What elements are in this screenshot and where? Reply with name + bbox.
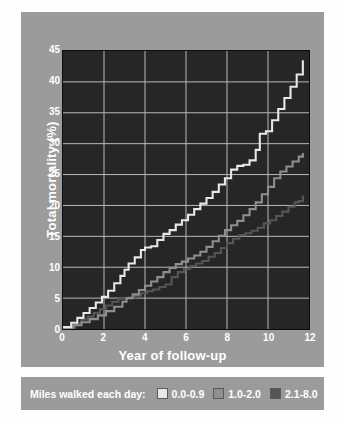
figure-container: Total mortality (%) 051015202530354045 0… <box>0 0 345 425</box>
legend-swatch <box>270 388 281 399</box>
legend-label: 1.0-2.0 <box>228 388 261 400</box>
x-tick-label: 4 <box>142 333 148 343</box>
legend-entry: 1.0-2.0 <box>213 388 261 400</box>
x-axis-title: Year of follow-up <box>21 348 324 363</box>
x-tick-label: 8 <box>225 333 231 343</box>
y-tick-label: 45 <box>49 45 60 55</box>
x-tick-label: 12 <box>304 333 315 343</box>
y-tick-label: 5 <box>54 294 60 304</box>
chart-panel: Total mortality (%) 051015202530354045 0… <box>21 12 324 367</box>
x-axis-ticks: 024681012 <box>62 333 310 349</box>
legend-entries: 0.0-0.91.0-2.02.1-8.0 <box>157 388 327 400</box>
legend-entry: 2.1-8.0 <box>270 388 318 400</box>
y-tick-label: 25 <box>49 169 60 179</box>
y-tick-label: 40 <box>49 76 60 86</box>
legend-panel: Miles walked each day: 0.0-0.91.0-2.02.1… <box>21 377 324 410</box>
legend-swatch <box>157 388 168 399</box>
legend-label: 2.1-8.0 <box>285 388 318 400</box>
y-axis-ticks: 051015202530354045 <box>35 50 60 330</box>
y-tick-label: 15 <box>49 232 60 242</box>
x-tick-label: 10 <box>263 333 274 343</box>
y-tick-label: 20 <box>49 201 60 211</box>
legend-swatch <box>213 388 224 399</box>
x-tick-label: 0 <box>59 333 65 343</box>
plot-svg <box>63 51 309 329</box>
y-tick-label: 10 <box>49 263 60 273</box>
legend-title: Miles walked each day: <box>30 388 146 400</box>
x-tick-label: 6 <box>183 333 189 343</box>
legend-entry: 0.0-0.9 <box>157 388 205 400</box>
y-tick-label: 30 <box>49 138 60 148</box>
plot-area <box>62 50 310 330</box>
legend-label: 0.0-0.9 <box>172 388 205 400</box>
series-layer <box>63 60 303 327</box>
x-tick-label: 2 <box>101 333 107 343</box>
gridlines <box>63 51 309 329</box>
y-tick-label: 35 <box>49 107 60 117</box>
